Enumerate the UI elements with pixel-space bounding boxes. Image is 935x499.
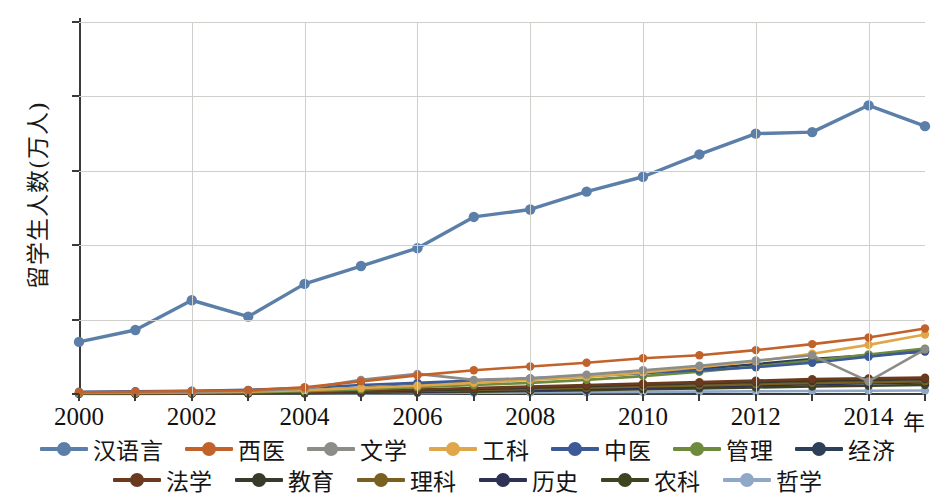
x-axis-tick [586, 394, 588, 401]
legend-label: 法学 [166, 463, 213, 497]
data-point [582, 359, 590, 367]
x-axis-tick [360, 394, 362, 401]
legend-item-管理[interactable]: 管理 [673, 432, 773, 466]
legend-item-汉语言[interactable]: 汉语言 [40, 432, 164, 466]
gridline-vertical [305, 22, 306, 394]
legend-label: 西医 [238, 432, 285, 466]
legend-item-经济[interactable]: 经济 [795, 432, 895, 466]
y-axis-tick [72, 244, 79, 246]
legend-item-中医[interactable]: 中医 [551, 432, 651, 466]
data-point [808, 359, 816, 367]
gridline-horizontal [79, 245, 925, 246]
gridline-vertical [417, 22, 418, 394]
data-point [695, 351, 703, 359]
legend-label: 文学 [360, 432, 407, 466]
legend-marker-icon [40, 441, 88, 457]
x-axis-tick [698, 394, 700, 401]
legend-dot-icon [57, 442, 71, 456]
gridline-horizontal [79, 22, 925, 23]
data-point [921, 345, 929, 353]
legend-label: 汉语言 [93, 432, 164, 466]
legend-dot-icon [202, 442, 216, 456]
x-axis-tick-label: 2008 [475, 404, 585, 429]
gridline-horizontal [79, 96, 925, 97]
data-point [581, 186, 591, 196]
chart-container: 留学生人数(万人) 051015202520002002200420062008… [0, 0, 935, 499]
data-point [470, 366, 478, 374]
series-lines [79, 22, 925, 394]
legend-item-工科[interactable]: 工科 [429, 432, 529, 466]
gridline-horizontal [79, 171, 925, 172]
legend-marker-icon [795, 441, 843, 457]
legend-marker-icon [185, 441, 233, 457]
data-point [130, 325, 140, 335]
legend-dot-icon [252, 473, 266, 487]
series-0 [74, 100, 930, 347]
legend-dot-icon [324, 442, 338, 456]
data-point [694, 149, 704, 159]
legend-row-1: 汉语言西医文学工科中医管理经济 [0, 433, 935, 464]
legend-item-教育[interactable]: 教育 [235, 463, 335, 497]
gridline-vertical [643, 22, 644, 394]
legend-dot-icon [568, 442, 582, 456]
x-axis-tick-label: 2010 [588, 404, 698, 429]
x-axis-tick [924, 394, 926, 401]
legend-dot-icon [618, 473, 632, 487]
legend-marker-icon [357, 472, 405, 488]
x-axis-tick-label: 2012 [701, 404, 811, 429]
y-axis-tick [72, 95, 79, 97]
legend-label: 理科 [410, 463, 457, 497]
x-axis-tick [755, 394, 757, 401]
x-axis-tick-label: 2000 [24, 404, 134, 429]
x-axis-tick [304, 394, 306, 401]
legend-label: 经济 [848, 432, 895, 466]
legend-item-农科[interactable]: 农科 [601, 463, 701, 497]
gridline-horizontal [79, 320, 925, 321]
legend-marker-icon [429, 441, 477, 457]
legend-dot-icon [812, 442, 826, 456]
x-axis-tick [191, 394, 193, 401]
x-axis-tick [811, 394, 813, 401]
legend-dot-icon [374, 473, 388, 487]
x-axis-tick [473, 394, 475, 401]
legend-marker-icon [551, 441, 599, 457]
data-point [695, 378, 703, 386]
data-point [582, 370, 590, 378]
data-point [357, 377, 365, 385]
y-axis-tick [72, 319, 79, 321]
x-axis-tick-label: 2002 [137, 404, 247, 429]
legend-label: 中医 [604, 432, 651, 466]
x-axis-tick [868, 394, 870, 401]
legend-item-法学[interactable]: 法学 [113, 463, 213, 497]
legend-marker-icon [479, 472, 527, 488]
y-axis-title: 留学生人数(万人) [19, 55, 53, 335]
x-axis-tick [416, 394, 418, 401]
legend-dot-icon [740, 473, 754, 487]
plot-area: 0510152025200020022004200620082010201220… [79, 22, 925, 394]
x-axis-tick-label: 2006 [362, 404, 472, 429]
x-axis-tick [134, 394, 136, 401]
legend-label: 历史 [532, 463, 579, 497]
y-axis-tick [72, 21, 79, 23]
data-point [808, 375, 816, 383]
gridline-vertical [530, 22, 531, 394]
legend-label: 农科 [654, 463, 701, 497]
legend-item-哲学[interactable]: 哲学 [723, 463, 823, 497]
data-point [695, 362, 703, 370]
legend-item-理科[interactable]: 理科 [357, 463, 457, 497]
legend-label: 管理 [726, 432, 773, 466]
legend-marker-icon [235, 472, 283, 488]
x-axis-tick [78, 394, 80, 401]
gridline-vertical [192, 22, 193, 394]
series-line [79, 105, 925, 342]
legend-item-文学[interactable]: 文学 [307, 432, 407, 466]
data-point [469, 212, 479, 222]
y-axis-tick [72, 170, 79, 172]
legend-dot-icon [690, 442, 704, 456]
legend-label: 教育 [288, 463, 335, 497]
data-point [921, 324, 929, 332]
legend-item-历史[interactable]: 历史 [479, 463, 579, 497]
legend-marker-icon [673, 441, 721, 457]
legend-item-西医[interactable]: 西医 [185, 432, 285, 466]
legend-marker-icon [307, 441, 355, 457]
